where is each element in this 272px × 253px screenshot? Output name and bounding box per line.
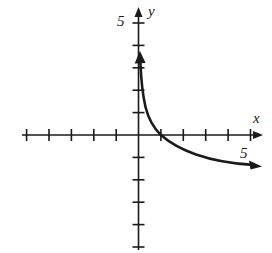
curve-arrowhead-right-icon [249,161,262,170]
y-axis-label: y [148,4,155,19]
coordinate-plane-svg [0,0,272,253]
curve-arrowhead-up-icon [135,51,146,64]
y-axis-arrowhead-icon [135,7,143,17]
x-axis-label: x [253,111,260,126]
y-axis-tick-label-5: 5 [117,14,125,29]
x-axis-tick-label-5: 5 [240,146,248,161]
log-curve [140,61,250,165]
graph-figure: y x 5 5 [0,0,272,253]
x-axis-arrowhead-icon [253,131,263,139]
